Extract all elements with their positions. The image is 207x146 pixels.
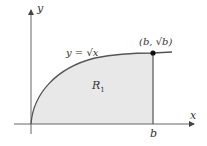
region-label-subscript: 1 [100,86,104,94]
x-axis-label: x [190,110,196,121]
diagram-canvas [0,0,207,146]
point-b-sqrtb [150,50,155,55]
tick-label-b: b [150,128,157,139]
region-label: R1 [92,80,105,94]
point-label: (b, √b) [139,37,172,47]
y-axis-label: y [37,3,43,14]
curve-label: y = √x [66,48,98,58]
